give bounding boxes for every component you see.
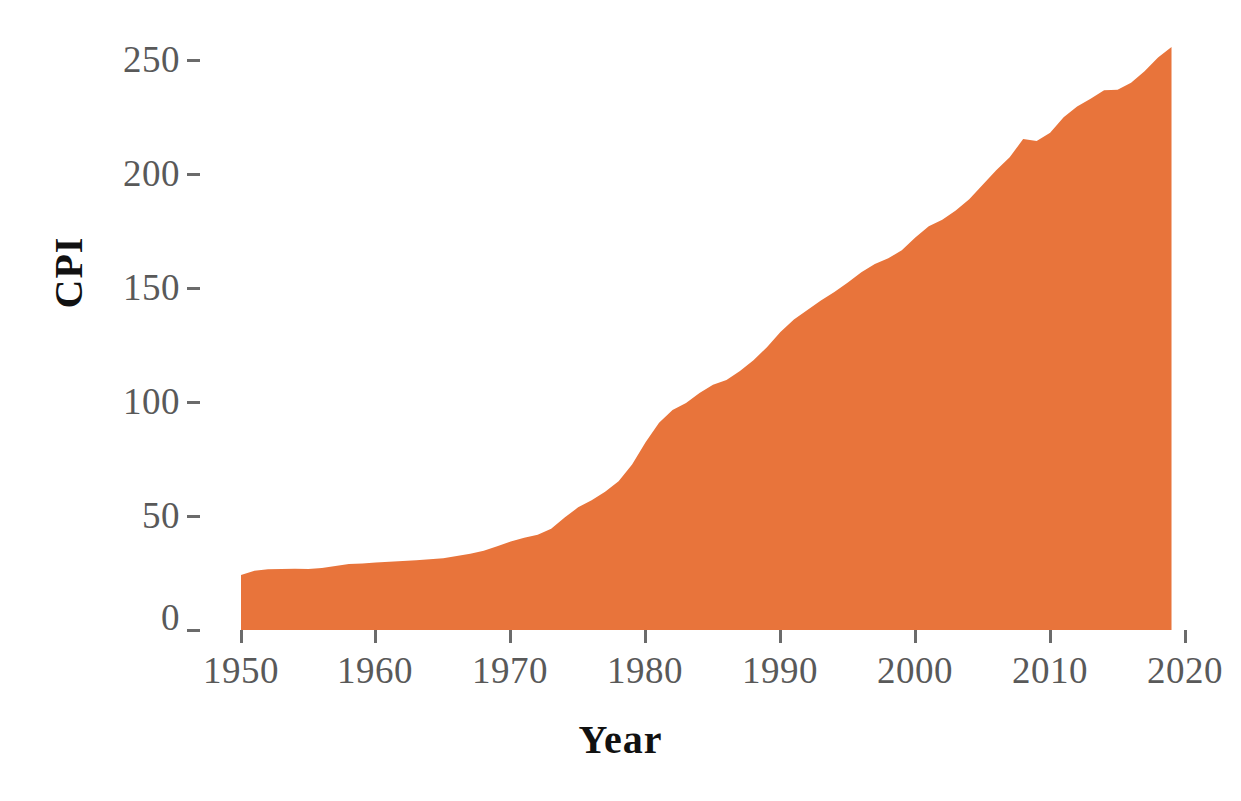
x-tick-mark-1970 [509, 630, 512, 643]
cpi-area-chart: 250 200 150 100 50 0 1950 [0, 0, 1241, 801]
x-tick-label-2020: 2020 [1147, 652, 1223, 689]
x-tick-label-2000: 2000 [877, 652, 953, 689]
x-tick-label-1980: 1980 [607, 652, 683, 689]
x-tick-label-1970: 1970 [472, 652, 548, 689]
x-tick-mark-1960 [374, 630, 377, 643]
x-tick-label-1960: 1960 [337, 652, 413, 689]
x-tick-mark-1990 [779, 630, 782, 643]
x-tick-mark-1950 [240, 630, 243, 643]
x-axis: 1950 1960 1970 1980 1990 2000 2010 2020 [0, 0, 1241, 801]
x-tick-mark-2000 [914, 630, 917, 643]
x-tick-mark-1980 [644, 630, 647, 643]
y-axis-title: CPI [45, 249, 92, 309]
x-axis-title: Year [0, 716, 1241, 763]
x-tick-label-1950: 1950 [203, 652, 279, 689]
x-tick-mark-2010 [1049, 630, 1052, 643]
x-tick-mark-2020 [1184, 630, 1187, 643]
x-tick-label-2010: 2010 [1012, 652, 1088, 689]
x-tick-label-1990: 1990 [742, 652, 818, 689]
